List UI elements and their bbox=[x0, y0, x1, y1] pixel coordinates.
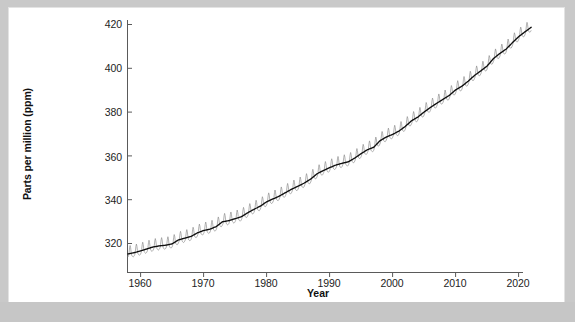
x-axis-title: Year bbox=[268, 287, 368, 299]
xtick-label-1970: 1970 bbox=[178, 277, 228, 289]
xtick-label-1960: 1960 bbox=[115, 277, 165, 289]
ytick-label-380: 380 bbox=[82, 106, 122, 118]
xtick-label-2010: 2010 bbox=[430, 277, 480, 289]
annual-trend-series bbox=[128, 27, 531, 254]
ytick-label-340: 340 bbox=[82, 194, 122, 206]
xtick-label-2000: 2000 bbox=[367, 277, 417, 289]
xtick-label-2020: 2020 bbox=[493, 277, 543, 289]
co2-line-chart: 420 400 380 360 340 320 1960 1970 1980 1… bbox=[0, 0, 575, 322]
y-axis-tick-marks bbox=[128, 25, 133, 244]
axis-lines bbox=[127, 20, 523, 273]
seasonal-monthly-series bbox=[128, 22, 531, 257]
ytick-label-420: 420 bbox=[82, 18, 122, 30]
ytick-label-360: 360 bbox=[82, 151, 122, 163]
ytick-label-400: 400 bbox=[82, 62, 122, 74]
figure-frame: 420 400 380 360 340 320 1960 1970 1980 1… bbox=[0, 0, 575, 322]
ytick-label-320: 320 bbox=[82, 237, 122, 249]
y-axis-title: Parts per million (ppm) bbox=[21, 69, 33, 219]
